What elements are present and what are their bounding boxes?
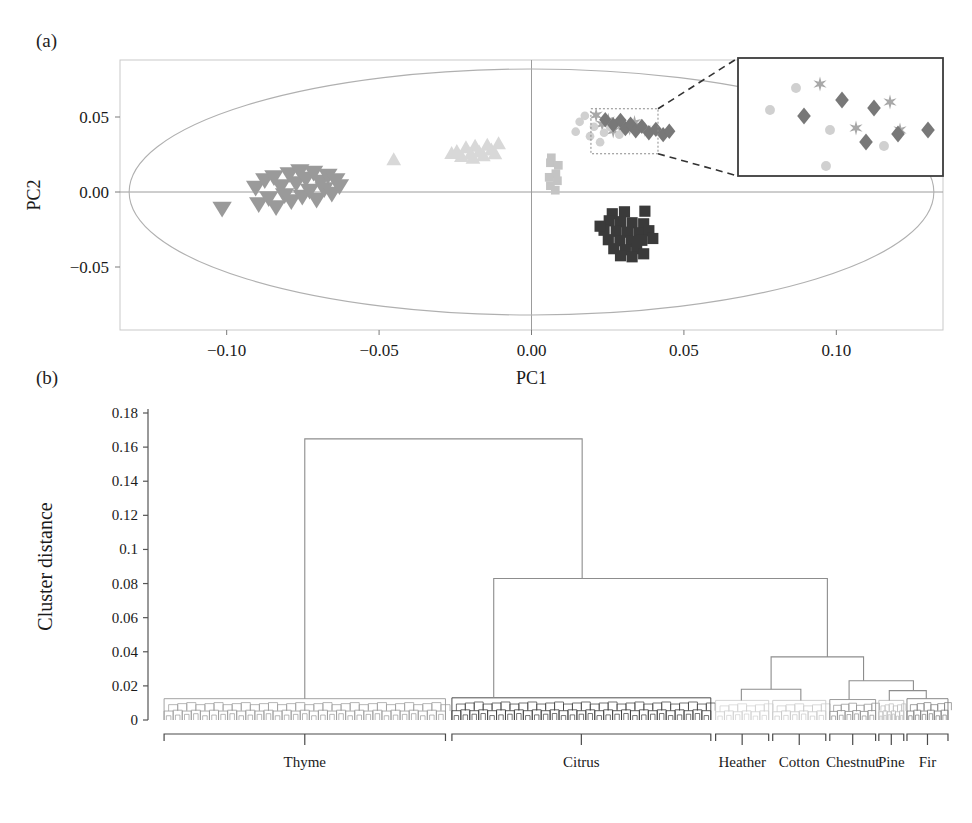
leaf-branch <box>688 702 697 711</box>
dendrogram-group-citrus <box>452 698 715 720</box>
leaf-branch <box>684 711 693 720</box>
leaf-branch <box>296 703 305 711</box>
leaf-branch <box>693 710 702 720</box>
leaf-branch <box>537 704 546 710</box>
leaf-branch <box>348 716 353 720</box>
leaf-branch <box>300 710 309 720</box>
series-cotton <box>545 153 563 194</box>
y-tick-label: 0.00 <box>79 183 109 202</box>
leaf-branch <box>862 716 866 720</box>
leaf-branch <box>212 715 217 720</box>
group-label-pine: Pine <box>878 754 905 770</box>
leaf-branch <box>916 715 919 720</box>
leaf-branch <box>228 710 237 720</box>
leaf-branch <box>470 711 479 720</box>
scatter-marker-square-dark <box>619 206 630 217</box>
leaf-branch <box>581 702 590 711</box>
leaf-branch <box>377 703 386 711</box>
leaf-branch <box>327 711 336 720</box>
leaf-branch <box>414 705 423 711</box>
leaf-branch <box>166 716 171 720</box>
dendrogram-merge-heather-cotton-chestnut-pine-fir <box>771 657 863 689</box>
leaf-branch <box>517 714 521 720</box>
leaf-branch <box>736 715 740 720</box>
leaf-branch <box>613 711 622 720</box>
dendrogram-group-chestnut <box>830 700 880 720</box>
leaf-branch <box>257 714 262 720</box>
leaf-branch <box>648 711 657 720</box>
group-label-heather: Heather <box>718 754 765 770</box>
leaf-branch <box>924 703 931 711</box>
leaf-branch <box>239 716 244 720</box>
leaf-branch <box>232 704 241 711</box>
scatter-marker-square-dark <box>615 216 626 227</box>
leaf-branch <box>501 702 510 710</box>
leaf-branch <box>870 715 874 720</box>
series-citrus-light <box>386 136 506 165</box>
leaf-branch <box>528 702 537 711</box>
scatter-marker-square-dark <box>615 250 626 261</box>
leaf-branch <box>884 715 886 720</box>
leaf-branch <box>853 711 861 720</box>
leaf-branch <box>357 715 362 720</box>
leaf-branch <box>608 702 617 710</box>
leaf-branch <box>293 714 298 720</box>
leaf-branch <box>421 716 426 720</box>
scatter-marker-circle <box>581 111 590 120</box>
leaf-branch <box>887 712 891 720</box>
dendrogram-group-thyme <box>164 699 450 720</box>
x-tick-label: 0.10 <box>821 341 851 360</box>
leaf-branch <box>624 714 628 720</box>
leaf-branch <box>892 714 894 720</box>
dendrogram-y-tick-label: 0.12 <box>112 507 138 523</box>
leaf-branch <box>430 715 435 720</box>
leaf-branch <box>364 711 373 720</box>
leaf-branch <box>221 714 226 720</box>
leaf-branch <box>499 715 503 720</box>
scatter-marker-square <box>551 186 560 195</box>
leaf-branch <box>561 716 565 720</box>
leaf-branch <box>622 710 631 720</box>
leaf-branch <box>439 714 444 720</box>
leaf-branch <box>927 710 934 720</box>
leaf-branch <box>727 715 731 720</box>
leaf-branch <box>668 716 672 720</box>
scatter-marker-circle <box>791 83 801 93</box>
leaf-branch <box>330 714 335 720</box>
leaf-branch <box>463 715 467 720</box>
leaf-branch <box>893 706 897 711</box>
leaf-branch <box>845 711 853 720</box>
y-axis-title: PC2 <box>24 179 44 210</box>
dendrogram-group-cotton <box>773 700 830 720</box>
dendrogram-group-heather <box>716 700 773 720</box>
dendrogram-merge-root <box>305 439 582 699</box>
leaf-branch <box>588 714 592 720</box>
leaf-branch <box>350 703 359 711</box>
leaf-branch <box>275 716 280 720</box>
leaf-branch <box>662 702 671 710</box>
leaf-branch <box>577 711 586 720</box>
x-tick-label: −0.05 <box>359 341 398 360</box>
group-label-chestnut: Chestnut <box>826 754 880 770</box>
leaf-branch <box>321 715 326 720</box>
leaf-branch <box>323 703 332 711</box>
leaf-branch <box>479 710 488 720</box>
leaf-branch <box>409 710 418 720</box>
leaf-branch <box>555 702 564 710</box>
leaf-branch <box>651 714 655 720</box>
leaf-branch <box>268 703 277 711</box>
scatter-marker-square-dark <box>638 248 649 259</box>
leaf-branch <box>402 714 407 720</box>
leaf-branch <box>793 715 797 720</box>
group-label-cotton: Cotton <box>779 754 820 770</box>
leaf-branch <box>483 704 492 710</box>
leaf-branch <box>855 714 859 720</box>
dendrogram-y-tick-label: 0.16 <box>112 439 139 455</box>
leaf-branch <box>303 714 308 720</box>
dendrogram-y-tick-label: 0.08 <box>112 576 138 592</box>
leaf-branch <box>505 711 514 720</box>
x-tick-label: 0.00 <box>517 341 547 360</box>
leaf-branch <box>626 703 635 710</box>
leaf-branch <box>931 705 938 711</box>
leaf-branch <box>248 715 253 720</box>
